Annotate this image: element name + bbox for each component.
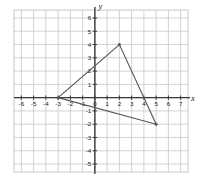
y-tick-label: -5 [86, 160, 92, 167]
x-tick-label: 6 [167, 100, 171, 107]
y-tick-label: -3 [86, 134, 92, 141]
coordinate-plane-figure: -6-5-4-3-2-101234567654321-1-2-3-4-5xy [0, 0, 202, 189]
y-tick-label: 6 [88, 14, 92, 21]
x-tick-label: -3 [55, 100, 61, 107]
y-tick-label: 5 [88, 28, 92, 35]
y-tick-label: -1 [86, 107, 92, 114]
y-axis-label: y [97, 1, 102, 11]
x-tick-label: -6 [19, 100, 25, 107]
vertex-marker [155, 123, 158, 126]
y-tick-label: -4 [86, 147, 92, 154]
x-tick-label: -4 [43, 100, 49, 107]
vertex-marker [118, 43, 121, 46]
plot-background [14, 10, 188, 172]
y-tick-label: -2 [86, 120, 92, 127]
x-tick-label: 0 [93, 100, 97, 107]
y-tick-label: 3 [88, 54, 92, 61]
x-tick-label: 2 [118, 100, 122, 107]
coordinate-plot: -6-5-4-3-2-101234567654321-1-2-3-4-5xy [0, 0, 202, 189]
vertex-marker [57, 96, 60, 99]
y-tick-label: 4 [88, 41, 92, 48]
x-tick-label: 1 [105, 100, 109, 107]
x-axis-label: x [190, 93, 195, 103]
x-tick-label: 3 [130, 100, 134, 107]
y-tick-label: 1 [88, 81, 92, 88]
x-tick-label: 7 [179, 100, 183, 107]
x-tick-label: -5 [31, 100, 37, 107]
x-tick-label: 5 [154, 100, 158, 107]
